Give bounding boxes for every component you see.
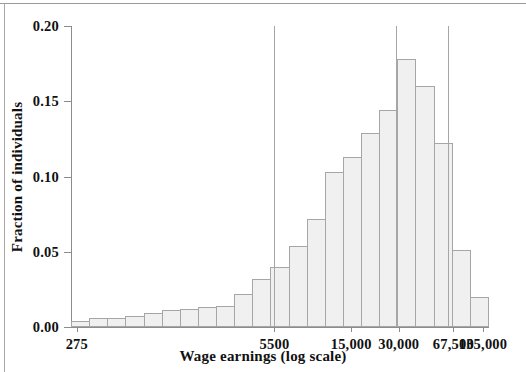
y-axis-tick-label: 0.05 — [33, 243, 59, 260]
histogram-bar — [162, 310, 181, 327]
histogram-bar — [289, 246, 308, 327]
histogram-bar — [361, 133, 380, 327]
x-axis-tick — [483, 327, 484, 332]
reference-line — [274, 26, 275, 327]
y-axis-tick: 0.15 — [64, 101, 71, 102]
y-axis-tick: 0.20 — [64, 26, 71, 27]
histogram-bar — [216, 306, 235, 327]
y-axis-tick: 0.00 — [64, 327, 71, 328]
y-axis-title-wrap: Fraction of individuals — [32, 26, 33, 327]
histogram-bar — [198, 307, 217, 327]
histogram-bar — [107, 318, 126, 327]
histogram-bar — [325, 172, 344, 327]
y-axis-tick-label: 0.00 — [33, 319, 59, 336]
x-axis-line — [71, 327, 489, 328]
histogram-bar — [180, 309, 199, 327]
histogram-bar — [415, 86, 434, 327]
x-axis-tick — [77, 327, 78, 332]
histogram-bar — [89, 318, 108, 327]
y-axis-tick-label: 0.20 — [33, 18, 59, 35]
histogram-bar — [144, 313, 163, 327]
y-axis-tick: 0.05 — [64, 252, 71, 253]
y-axis-title: Fraction of individuals — [9, 101, 26, 251]
histogram-bar — [125, 316, 144, 327]
histogram-bar — [307, 219, 326, 327]
plot-area: 0.000.050.100.150.20275550015,00030,0006… — [71, 26, 488, 327]
scan-edge-top — [0, 3, 526, 4]
x-axis-tick — [453, 327, 454, 332]
y-axis-tick-label: 0.10 — [33, 168, 59, 185]
y-axis-tick-label: 0.15 — [33, 93, 59, 110]
histogram-bar — [71, 321, 90, 327]
x-axis-tick — [399, 327, 400, 332]
histogram-bar — [434, 143, 453, 327]
histogram-figure: 0.000.050.100.150.20275550015,00030,0006… — [0, 0, 526, 372]
reference-line — [396, 26, 397, 327]
x-axis-tick — [351, 327, 352, 332]
y-axis-tick: 0.10 — [64, 177, 71, 178]
reference-line — [448, 26, 449, 327]
x-axis-tick — [274, 327, 275, 332]
histogram-bar — [397, 59, 416, 327]
histogram-bar — [452, 250, 471, 327]
histogram-bar — [252, 279, 271, 327]
scan-edge-left — [4, 3, 5, 372]
x-axis-title: Wage earnings (log scale) — [0, 348, 526, 365]
histogram-bar — [343, 157, 362, 327]
histogram-bar — [234, 294, 253, 327]
histogram-bar — [470, 297, 489, 327]
